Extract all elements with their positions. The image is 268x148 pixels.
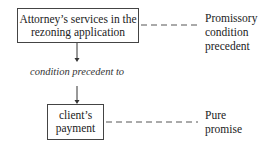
top-annotation-line-3: precedent xyxy=(205,39,257,53)
top-box: Attorney’s services in the rezoning appl… xyxy=(17,8,139,43)
bottom-box-line-2: payment xyxy=(56,122,96,135)
arrow-head-upper xyxy=(75,58,80,62)
bottom-annotation-line-1: Pure xyxy=(205,108,242,122)
bottom-box-line-1: client’s xyxy=(59,109,92,122)
top-box-line-1: Attorney’s services in the xyxy=(19,13,136,26)
top-annotation-line-2: condition xyxy=(205,25,257,39)
top-annotation-line-1: Promissory xyxy=(205,11,257,25)
bottom-annotation: Pure promise xyxy=(205,108,242,136)
top-annotation: Promissory condition precedent xyxy=(205,11,257,53)
top-box-line-2: rezoning application xyxy=(31,26,125,39)
bottom-box: client’s payment xyxy=(47,104,104,140)
bottom-annotation-line-2: promise xyxy=(205,122,242,136)
connector-label: condition precedent to xyxy=(30,66,124,77)
